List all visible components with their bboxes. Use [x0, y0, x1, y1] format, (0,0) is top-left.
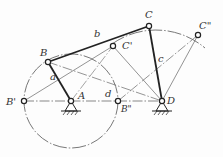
label-d-point: D: [166, 95, 175, 106]
label-link-a: a: [50, 71, 56, 82]
joint-b-double-prime: [115, 98, 120, 103]
four-bar-linkage-diagram: A B C D B' B" C' C" a b c d: [0, 0, 223, 157]
joint-a: [68, 98, 73, 103]
diagram-canvas: A B C D B' B" C' C" a b c d: [0, 0, 223, 157]
joint-c: [146, 23, 151, 28]
joint-c-prime: [110, 43, 115, 48]
label-b-double-prime: B": [120, 104, 132, 114]
label-link-d: d: [105, 88, 111, 99]
label-b-point: B: [39, 47, 47, 58]
joint-c-double-prime: [195, 32, 200, 37]
label-c-prime: C': [122, 40, 132, 51]
joint-b-prime: [21, 98, 26, 103]
joint-d: [159, 98, 164, 103]
label-link-b: b: [94, 28, 100, 39]
label-c-double-prime: C": [199, 20, 211, 31]
label-b-prime: B': [5, 96, 16, 107]
label-link-c: c: [158, 53, 164, 64]
label-c-point: C: [145, 9, 153, 20]
extreme-rocker-c2-d: [162, 35, 198, 101]
joint-b: [45, 59, 50, 64]
label-a-point: A: [77, 90, 85, 101]
